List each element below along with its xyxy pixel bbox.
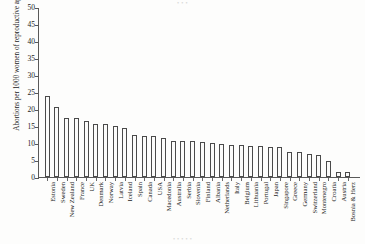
bar — [122, 128, 127, 177]
bar — [151, 136, 156, 177]
x-tick-mark — [76, 178, 77, 181]
y-tick-label: 30 — [28, 72, 36, 80]
x-axis-labels: EstoniaSwedenNew ZealandFranceUKDenmarkN… — [38, 182, 360, 242]
bar — [316, 155, 321, 177]
bar — [200, 142, 205, 177]
x-axis-label: Montenegro — [321, 182, 328, 214]
x-tick-mark — [261, 178, 262, 181]
x-tick-mark — [202, 178, 203, 181]
y-tick-label: 0 — [31, 174, 35, 182]
y-axis-title: Abortions per 1000 women of reproductive… — [13, 0, 22, 138]
bar — [239, 145, 244, 177]
bar — [277, 147, 282, 177]
bar — [287, 152, 292, 177]
bar — [297, 152, 302, 177]
bar — [142, 136, 147, 177]
x-tick-mark — [231, 178, 232, 181]
x-tick-mark — [328, 178, 329, 181]
abortion-rate-bar-chart: • • • Abortions per 1000 women of reprod… — [0, 0, 365, 244]
bar — [307, 154, 312, 177]
x-axis-label: Norway — [108, 182, 115, 203]
x-tick-mark — [222, 178, 223, 181]
bar — [84, 121, 89, 177]
x-axis-label: Singapore — [283, 182, 290, 209]
x-tick-mark — [241, 178, 242, 181]
x-axis-label: Croatia — [331, 182, 338, 201]
x-tick-mark — [125, 178, 126, 181]
x-tick-mark — [280, 178, 281, 181]
bar — [326, 161, 331, 177]
bar — [219, 144, 224, 177]
x-tick-mark — [67, 178, 68, 181]
x-tick-mark — [348, 178, 349, 181]
x-axis-label: Australia — [176, 182, 183, 206]
x-axis-label: Italy — [234, 182, 241, 194]
page-artifact-bottom: • • • • • — [0, 235, 365, 244]
x-axis-label: Denmark — [98, 182, 105, 207]
x-tick-mark — [309, 178, 310, 181]
x-axis-label: Austria — [341, 182, 348, 201]
x-axis-label: Portugal — [263, 182, 270, 204]
bar — [180, 141, 185, 177]
x-axis-label: Serbia — [186, 182, 193, 199]
x-tick-mark — [115, 178, 116, 181]
bar — [45, 96, 50, 177]
bar — [161, 138, 166, 177]
x-axis-label: New Zealand — [69, 182, 76, 217]
y-tick-label: 40 — [28, 38, 36, 46]
x-axis-label: Lithuania — [253, 182, 260, 207]
bar — [171, 141, 176, 177]
y-tick-label: 35 — [28, 55, 36, 63]
x-tick-mark — [193, 178, 194, 181]
y-tick-label: 20 — [28, 106, 36, 114]
y-tick-label: 5 — [31, 157, 35, 165]
x-tick-mark — [135, 178, 136, 181]
x-axis-label: Iceland — [127, 182, 134, 201]
bar — [258, 146, 263, 177]
x-axis-label: Albania — [215, 182, 222, 203]
bar — [190, 141, 195, 177]
y-tick-label: 15 — [28, 123, 36, 131]
y-tick-label: 45 — [28, 21, 36, 29]
y-tick-label: 50 — [28, 4, 36, 12]
x-tick-mark — [212, 178, 213, 181]
x-axis-label: Latvia — [118, 182, 125, 199]
x-axis-label: Finland — [205, 182, 212, 202]
bar — [210, 143, 215, 177]
x-axis-label: Canada — [147, 182, 154, 202]
x-axis-label: USA — [157, 182, 164, 195]
x-tick-mark — [144, 178, 145, 181]
x-axis-label: Germany — [302, 182, 309, 207]
bar — [345, 172, 350, 177]
x-axis-label: Switzerland — [312, 182, 319, 214]
x-axis-label: Japan — [273, 182, 280, 197]
x-tick-mark — [251, 178, 252, 181]
x-axis-label: Belgium — [244, 182, 251, 205]
x-tick-mark — [290, 178, 291, 181]
x-tick-mark — [105, 178, 106, 181]
x-axis-label: Netherlands — [224, 182, 231, 214]
bar — [229, 145, 234, 177]
x-tick-mark — [173, 178, 174, 181]
bar — [103, 124, 108, 177]
x-tick-mark — [299, 178, 300, 181]
x-tick-mark — [319, 178, 320, 181]
bar — [64, 118, 69, 177]
x-axis-label: Spain — [137, 182, 144, 197]
x-axis-label: Greece — [292, 182, 299, 201]
y-tick-label: 10 — [28, 140, 36, 148]
x-tick-mark — [183, 178, 184, 181]
x-axis-label: Bosnia & Herz — [350, 182, 357, 222]
bar — [113, 126, 118, 177]
x-tick-mark — [164, 178, 165, 181]
x-tick-mark — [154, 178, 155, 181]
bar — [54, 107, 59, 177]
x-axis-label: Sweden — [60, 182, 67, 203]
x-axis-label: Slovenia — [195, 182, 202, 205]
bar — [268, 147, 273, 177]
plot-area: 05101520253035404550 — [38, 8, 360, 178]
x-axis-label: France — [79, 182, 86, 200]
x-axis-label: UK — [89, 182, 96, 192]
bar — [74, 118, 79, 177]
bar — [248, 146, 253, 177]
